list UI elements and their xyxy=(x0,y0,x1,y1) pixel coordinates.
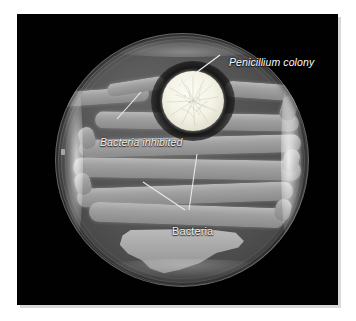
dish-rim-highlight-top xyxy=(85,33,285,57)
bacteria-streak xyxy=(89,202,286,229)
figure-container: Penicillium colony Bacteria inhibited Ba… xyxy=(0,0,356,321)
bacteria-streak-connector xyxy=(273,197,294,222)
dish-rim-notch xyxy=(72,237,78,240)
colony-filament-texture xyxy=(162,71,224,131)
petri-dish xyxy=(55,33,309,287)
petri-dish-photograph: Penicillium colony Bacteria inhibited Ba… xyxy=(17,14,338,305)
dish-rim-notch xyxy=(61,149,65,155)
bacteria-streak xyxy=(73,157,301,181)
penicillium-colony xyxy=(162,71,224,131)
dish-rim-notch xyxy=(67,229,74,233)
bacteria-confluent-mass xyxy=(117,229,255,275)
